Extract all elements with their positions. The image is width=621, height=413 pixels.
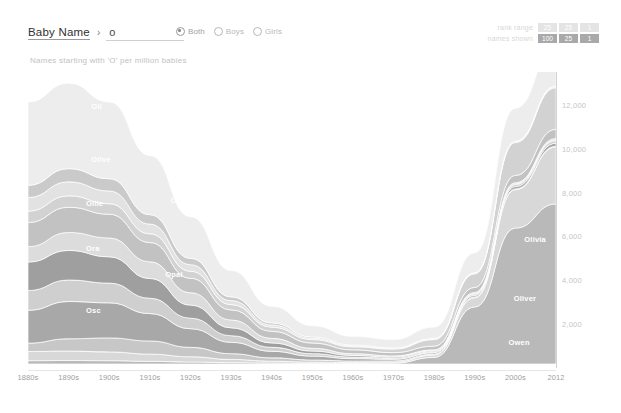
segment-names-1[interactable]: 25 xyxy=(559,34,578,43)
radio-dot-icon xyxy=(176,27,185,36)
y-axis-tick-label: 2,000 xyxy=(562,320,582,329)
segment-rank-1[interactable]: 25 xyxy=(559,23,578,32)
x-axis-line xyxy=(28,370,556,371)
segment-caption-names-shown: names shown xyxy=(488,35,533,42)
x-axis-tick-label: 1890s xyxy=(58,373,79,382)
breadcrumb-baby-name[interactable]: Baby Name xyxy=(28,26,90,40)
y-axis-tick-label: 10,000 xyxy=(562,145,586,154)
x-axis-tick-label: 2000s xyxy=(505,373,526,382)
x-axis-tick-label: 1900s xyxy=(99,373,120,382)
segmented-row-names-shown: names shown 100 25 1 xyxy=(488,34,599,43)
segment-rank-2[interactable]: 1 xyxy=(580,23,599,32)
name-search-group: Baby Name › xyxy=(28,24,184,41)
baby-name-voyager-app: Baby Name › Both Boys Girls rank range 2… xyxy=(0,0,621,413)
x-axis-tick-label: 1960s xyxy=(342,373,363,382)
x-axis-tick-label: 1970s xyxy=(383,373,404,382)
name-search-input[interactable] xyxy=(106,24,184,41)
segmented-controls: rank range 25 25 1 names shown 100 25 1 xyxy=(488,23,599,43)
gender-radio-group[interactable]: Both Boys Girls xyxy=(176,27,282,36)
radio-option-girls[interactable]: Girls xyxy=(253,27,282,36)
radio-option-boys[interactable]: Boys xyxy=(214,27,244,36)
chart-subtitle: Names starting with 'O' per million babi… xyxy=(30,56,187,65)
y-axis-tick-label: 8,000 xyxy=(562,189,582,198)
x-axis-tick-label: 1940s xyxy=(261,373,282,382)
chevron-right-icon: › xyxy=(95,27,101,38)
x-axis-tick-label: 1880s xyxy=(18,373,39,382)
x-axis-tick-label: 1910s xyxy=(139,373,160,382)
radio-dot-icon xyxy=(253,27,262,36)
radio-label-girls: Girls xyxy=(265,27,282,36)
radio-label-boys: Boys xyxy=(226,27,244,36)
y-axis-tick-label: 6,000 xyxy=(562,232,582,241)
segment-names-2[interactable]: 1 xyxy=(580,34,599,43)
segment-names-0[interactable]: 100 xyxy=(538,34,557,43)
segment-caption-rank: rank range xyxy=(498,24,533,31)
x-axis-tick-label: 1980s xyxy=(424,373,445,382)
x-axis-tick-label: 1950s xyxy=(302,373,323,382)
radio-dot-icon xyxy=(214,27,223,36)
y-axis-line xyxy=(556,72,557,368)
x-axis-tick-label: 1920s xyxy=(180,373,201,382)
radio-label-both: Both xyxy=(188,27,205,36)
radio-option-both[interactable]: Both xyxy=(176,27,205,36)
y-axis-tick-label: 4,000 xyxy=(562,276,582,285)
x-axis-tick-label: 1930s xyxy=(221,373,242,382)
x-axis-tick-label: 2012 xyxy=(547,373,564,382)
chart-container: 2,0004,0006,0008,00010,00012,000 1880s18… xyxy=(0,70,621,413)
segment-rank-0[interactable]: 25 xyxy=(538,23,557,32)
stream-plot[interactable] xyxy=(28,72,556,368)
x-axis-tick-label: 1990s xyxy=(464,373,485,382)
y-axis-tick-label: 12,000 xyxy=(562,101,586,110)
segmented-row-rank: rank range 25 25 1 xyxy=(498,23,599,32)
stacked-area-svg xyxy=(28,72,556,368)
toolbar: Baby Name › Both Boys Girls rank range 2… xyxy=(0,0,621,48)
